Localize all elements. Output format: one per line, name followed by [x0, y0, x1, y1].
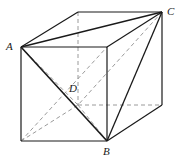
- tetrahedron-hidden-edges-group: [21, 12, 162, 141]
- vertex-label-d: D: [69, 83, 77, 94]
- vertex-label-b: B: [103, 146, 110, 157]
- cube-diagram: [0, 0, 179, 166]
- geometry-figure: A B C D: [0, 0, 179, 166]
- vertex-label-c: C: [167, 6, 174, 17]
- edge-CB: [107, 12, 162, 141]
- edge-top-left-diag: [21, 12, 78, 47]
- edge-top-right-diag: [107, 12, 162, 47]
- hidden-edge-CD: [78, 12, 162, 105]
- hidden-edge-bottom-left-diag: [21, 105, 78, 141]
- vertex-label-a: A: [6, 41, 13, 52]
- edge-AC: [21, 12, 162, 47]
